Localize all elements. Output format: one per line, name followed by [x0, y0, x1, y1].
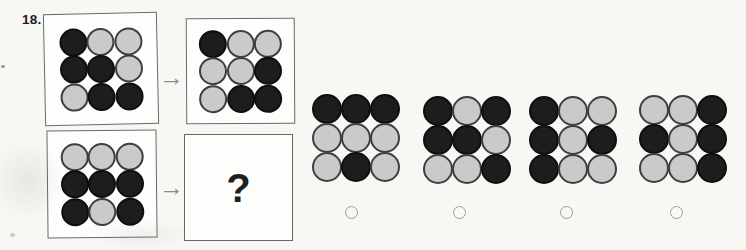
dark-circle: [116, 197, 144, 225]
dark-circle: [697, 124, 727, 154]
dark-circle: [341, 94, 371, 124]
dark-circle: [87, 82, 116, 111]
dark-circle: [312, 94, 342, 124]
light-circle: [86, 27, 115, 56]
dark-circle: [423, 96, 453, 126]
light-circle: [452, 154, 482, 184]
dark-circle: [254, 57, 282, 85]
light-circle: [558, 154, 588, 184]
light-circle: [639, 153, 669, 183]
dark-circle: [60, 170, 88, 198]
dark-circle: [697, 95, 727, 125]
dark-circle: [639, 124, 669, 154]
dark-circle: [87, 55, 116, 84]
option-4-radio[interactable]: [670, 206, 683, 219]
dark-circle: [370, 94, 400, 124]
light-circle: [114, 54, 143, 83]
option-2-radio[interactable]: [453, 206, 466, 219]
light-circle: [668, 95, 698, 125]
question-number: 18.: [22, 12, 42, 27]
question-mark: ?: [226, 168, 250, 208]
dark-circle: [227, 84, 255, 112]
light-circle: [668, 153, 698, 183]
dark-circle: [115, 170, 143, 198]
light-circle: [370, 123, 400, 153]
dark-circle: [59, 55, 88, 84]
dark-circle: [529, 125, 559, 155]
example-output-box: [186, 18, 296, 125]
light-circle: [60, 83, 89, 112]
scan-speck: [10, 233, 15, 237]
option-3-radio[interactable]: [560, 206, 573, 219]
dark-circle: [199, 30, 227, 58]
light-circle: [639, 95, 669, 125]
example-input-box: [43, 12, 159, 126]
light-circle: [423, 154, 453, 184]
dark-circle: [61, 198, 89, 226]
light-circle: [88, 142, 116, 170]
dark-circle: [529, 96, 559, 126]
problem-input-box: [46, 129, 157, 238]
light-circle: [370, 152, 400, 182]
dark-circle: [59, 28, 88, 57]
example-output-grid: [199, 29, 282, 112]
dark-circle: [88, 170, 116, 198]
light-circle: [587, 154, 617, 184]
light-circle: [587, 96, 617, 126]
light-circle: [312, 152, 342, 182]
light-circle: [558, 125, 588, 155]
light-circle: [558, 96, 588, 126]
light-circle: [226, 57, 254, 85]
light-circle: [60, 143, 88, 171]
dark-circle: [341, 152, 371, 182]
light-circle: [668, 124, 698, 154]
light-circle: [312, 123, 342, 153]
arrow-right-icon: →: [159, 65, 184, 90]
arrow-right-icon: →: [159, 175, 184, 200]
dark-circle: [481, 154, 511, 184]
option-3-grid[interactable]: [529, 96, 617, 184]
dark-circle: [587, 125, 617, 155]
problem-input-grid: [60, 142, 144, 226]
light-circle: [254, 29, 282, 57]
light-circle: [88, 197, 116, 225]
light-circle: [452, 96, 482, 126]
light-circle: [481, 125, 511, 155]
light-circle: [226, 29, 254, 57]
scan-speck: [1, 65, 5, 68]
light-circle: [341, 123, 371, 153]
option-2-grid[interactable]: [423, 96, 511, 184]
dark-circle: [115, 82, 144, 111]
example-input-grid: [59, 27, 144, 112]
option-1-grid[interactable]: [312, 94, 400, 182]
option-4-grid[interactable]: [639, 95, 727, 183]
light-circle: [115, 142, 143, 170]
dark-circle: [697, 153, 727, 183]
option-1-radio[interactable]: [345, 206, 358, 219]
light-circle: [114, 27, 143, 56]
dark-circle: [452, 125, 482, 155]
quiz-question-area: 18. → → ?: [0, 0, 746, 250]
dark-circle: [254, 84, 282, 112]
dark-circle: [529, 154, 559, 184]
light-circle: [199, 57, 227, 85]
dark-circle: [481, 96, 511, 126]
dark-circle: [423, 125, 453, 155]
answer-placeholder-box: ?: [184, 134, 293, 241]
light-circle: [199, 85, 227, 113]
